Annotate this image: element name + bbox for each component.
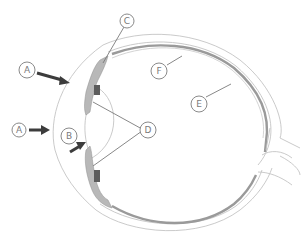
eye-diagram: A A B C D E F	[0, 0, 301, 248]
svg-text:E: E	[196, 99, 202, 109]
label-a-lower: A	[12, 123, 26, 137]
upper-iris	[85, 56, 109, 115]
label-b: B	[61, 128, 77, 144]
label-c: C	[120, 14, 134, 28]
label-a-upper: A	[19, 62, 35, 78]
choroid	[112, 48, 264, 138]
label-e: E	[191, 96, 207, 112]
svg-text:A: A	[16, 125, 23, 135]
svg-text:D: D	[145, 125, 152, 135]
label-f: F	[151, 63, 167, 79]
leader-e	[206, 84, 231, 97]
light-arrow-lower	[29, 125, 50, 135]
label-d: D	[140, 122, 156, 138]
svg-text:C: C	[124, 16, 130, 26]
retina	[112, 45, 267, 223]
light-arrow-upper	[37, 73, 70, 85]
svg-text:A: A	[24, 65, 31, 75]
inner-sclera	[100, 42, 271, 224]
leader-d-upper	[93, 102, 142, 129]
svg-text:B: B	[66, 131, 72, 141]
leader-d-lower	[93, 131, 142, 166]
leader-f	[167, 56, 182, 65]
svg-text:F: F	[156, 66, 161, 76]
